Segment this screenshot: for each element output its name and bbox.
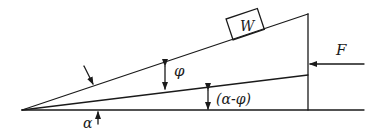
force-label: F	[335, 41, 347, 59]
wedge-diagram: W F φ (α-φ) α	[0, 0, 384, 134]
weight-label: W	[240, 18, 256, 34]
alpha-label: α	[83, 115, 93, 131]
phi-label: φ	[174, 62, 185, 80]
incline-line	[22, 14, 308, 110]
surface-pointer-arrow-icon	[84, 66, 93, 84]
alpha-minus-phi-label: (α-φ)	[216, 91, 251, 107]
